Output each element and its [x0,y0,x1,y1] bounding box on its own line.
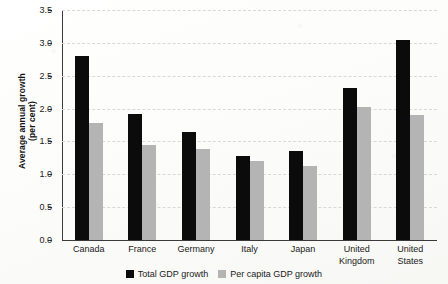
legend-swatch-icon [126,270,134,278]
legend-swatch-icon [218,270,226,278]
bar-total-gdp-growth [182,132,196,240]
legend-label: Total GDP growth [138,269,208,279]
bar-total-gdp-growth [396,40,410,240]
y-axis-tick-label: 0.0 [20,236,52,245]
bar-group [223,10,277,240]
bar-total-gdp-growth [75,56,89,240]
x-axis-baseline [62,240,437,241]
y-axis-tick-label: 3.0 [20,38,52,47]
y-axis-tick-label: 3.5 [20,6,52,15]
bar-per-capita-gdp-growth [410,115,424,240]
x-axis-label-line: States [383,256,437,268]
x-axis-label-line: United [330,244,384,256]
legend-item: Total GDP growth [126,269,208,279]
x-axis-label-line: United [383,244,437,256]
bar-per-capita-gdp-growth [196,149,210,240]
x-axis-label-line: Japan [276,244,330,256]
bar-per-capita-gdp-growth [303,166,317,240]
bar-per-capita-gdp-growth [250,161,264,241]
chart-legend: Total GDP growthPer capita GDP growth [0,269,448,279]
bar-per-capita-gdp-growth [89,123,103,240]
x-axis-label-line: France [116,244,170,256]
y-axis-tick-label: 1.5 [20,137,52,146]
x-axis-label-line: Canada [62,244,116,256]
bar-groups [62,10,437,240]
x-axis-label-line: Germany [169,244,223,256]
bar-group [330,10,384,240]
bar-group [383,10,437,240]
bar-group [276,10,330,240]
bar-group [116,10,170,240]
bar-per-capita-gdp-growth [357,107,371,240]
bar-group [169,10,223,240]
bar-total-gdp-growth [343,88,357,240]
bar-total-gdp-growth [236,156,250,240]
bar-chart: Average annual growth (per cent) 0.00.51… [0,0,448,284]
x-axis-label-line: Italy [223,244,277,256]
plot-area: 0.00.51.01.52.02.53.03.5 [62,10,437,240]
legend-item: Per capita GDP growth [218,269,322,279]
legend-label: Per capita GDP growth [230,269,322,279]
bar-total-gdp-growth [128,114,142,240]
y-axis-tick-label: 2.5 [20,71,52,80]
bar-per-capita-gdp-growth [142,145,156,240]
bar-total-gdp-growth [289,151,303,240]
x-axis-label-line: Kingdom [330,256,384,268]
y-axis-tick-label: 1.0 [20,170,52,179]
y-axis-tick-label: 0.5 [20,203,52,212]
y-axis-title-line-1: Average annual growth [17,73,28,169]
bar-group [62,10,116,240]
y-axis-tick-label: 2.0 [20,104,52,113]
